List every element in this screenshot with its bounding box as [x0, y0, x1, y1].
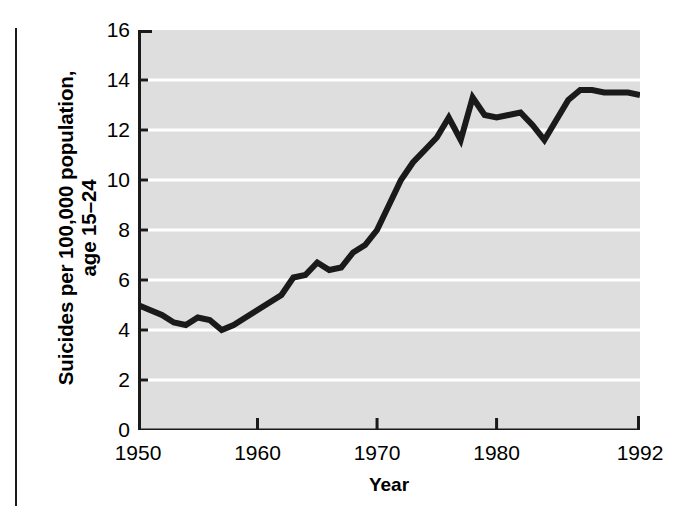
x-axis-tick-labels: 19501960197019801992 — [0, 441, 695, 471]
y-tick-label: 12 — [90, 119, 130, 140]
x-tick-label: 1992 — [595, 441, 685, 465]
data-line-series-0 — [138, 90, 640, 330]
y-tick-label: 10 — [90, 169, 130, 190]
y-axis-title-line-1: Suicides per 100,000 population, — [54, 28, 77, 428]
x-tick-label: 1950 — [93, 441, 183, 465]
y-axis-tick-labels: 1614121086420 — [86, 0, 130, 516]
y-tick-label: 6 — [90, 269, 130, 290]
chart-figure: Suicides per 100,000 population, age 15–… — [0, 0, 695, 516]
plot-svg — [138, 30, 640, 430]
y-tick-label: 2 — [90, 369, 130, 390]
y-tick-label: 16 — [90, 19, 130, 40]
plot-area — [138, 30, 640, 430]
gridlines — [138, 80, 640, 380]
x-tick-label: 1960 — [213, 441, 303, 465]
y-tick-label: 4 — [90, 319, 130, 340]
x-axis-title: Year — [138, 474, 640, 496]
y-tick-label: 14 — [90, 69, 130, 90]
x-tick-label: 1980 — [452, 441, 542, 465]
x-tick-label: 1970 — [332, 441, 422, 465]
left-vertical-rule — [15, 28, 17, 506]
y-tick-label: 8 — [90, 219, 130, 240]
y-tick-label: 0 — [90, 419, 130, 440]
